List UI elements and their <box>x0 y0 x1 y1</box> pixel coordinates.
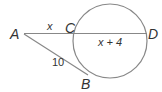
point-label-a: A <box>9 26 19 42</box>
tangent-line-ab <box>24 34 88 75</box>
geometry-diagram: A B C D x x + 4 10 <box>0 0 162 92</box>
segment-label-ac: x <box>46 20 53 32</box>
point-label-d: D <box>148 26 158 42</box>
segment-label-cd: x + 4 <box>97 36 122 48</box>
point-label-b: B <box>81 76 90 92</box>
segment-label-ab: 10 <box>52 56 64 68</box>
point-label-c: C <box>65 20 76 36</box>
